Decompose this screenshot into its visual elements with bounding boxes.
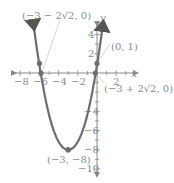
vertex-point	[65, 147, 71, 153]
left-root-point	[38, 70, 43, 75]
x-axis-label: x	[131, 68, 137, 79]
y-tick-label: 4	[88, 29, 94, 40]
y-intercept-label: (0, 1)	[111, 41, 138, 52]
x-tick-label: −4	[52, 76, 67, 87]
symmetric-point	[37, 61, 42, 66]
left-root-label: (−3 − 2√2, 0)	[22, 10, 91, 21]
vertex-label: (−3, −8)	[47, 154, 91, 165]
y-tick-label: −6	[84, 125, 99, 136]
parabola-chart: −8 −6 −4 −2 2 x 4 2 −4 −6 −8 −10	[0, 0, 174, 183]
y-axis-label: y	[99, 12, 106, 23]
x-tick-label: −2	[71, 76, 86, 87]
right-root-label: (−3 + 2√2, 0)	[104, 83, 173, 94]
y-intercept-point	[94, 61, 99, 66]
right-root-point	[93, 70, 98, 75]
y-tick-label: 2	[88, 48, 94, 59]
x-tick-label: −8	[14, 76, 29, 87]
